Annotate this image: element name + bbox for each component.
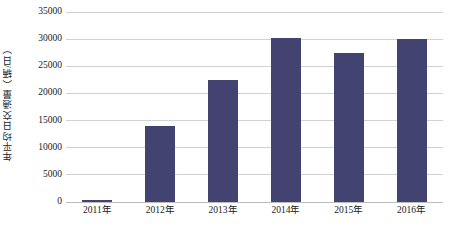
bar-slot bbox=[271, 12, 301, 202]
y-axis-tick-label: 25000 bbox=[18, 61, 62, 71]
y-axis-tick-label: 0 bbox=[18, 197, 62, 207]
gridline bbox=[66, 93, 443, 94]
gridline bbox=[66, 12, 443, 13]
y-axis-title-text: 年平均日交通量（辆/日） bbox=[4, 44, 14, 161]
bar bbox=[397, 39, 427, 202]
bar bbox=[271, 38, 301, 202]
bar-slot bbox=[208, 12, 238, 202]
bar bbox=[82, 200, 112, 202]
y-axis-tick-label: 35000 bbox=[18, 7, 62, 17]
x-axis-tick-label: 2011年 bbox=[66, 206, 129, 216]
bar-chart: 年平均日交通量（辆/日） 050001000015000200002500030… bbox=[0, 0, 450, 235]
y-axis-tick-label: 20000 bbox=[18, 88, 62, 98]
y-axis-tick-label: 15000 bbox=[18, 116, 62, 126]
x-axis-tick-label: 2012年 bbox=[129, 206, 192, 216]
y-axis-title: 年平均日交通量（辆/日） bbox=[0, 0, 18, 205]
bar bbox=[334, 53, 364, 202]
bar bbox=[145, 126, 175, 202]
y-axis-tick-label: 5000 bbox=[18, 170, 62, 180]
axis-baseline bbox=[66, 202, 443, 203]
x-axis-tick-label: 2015年 bbox=[317, 206, 380, 216]
plot-area bbox=[66, 12, 443, 202]
gridline bbox=[66, 39, 443, 40]
bar-slot bbox=[145, 12, 175, 202]
bar bbox=[208, 80, 238, 202]
bar-slot bbox=[82, 12, 112, 202]
x-axis-tick-label: 2016年 bbox=[380, 206, 443, 216]
y-axis-tick-label: 10000 bbox=[18, 143, 62, 153]
y-axis-tick-label: 30000 bbox=[18, 34, 62, 44]
x-axis-tick-labels: 2011年2012年2013年2014年2015年2016年 bbox=[66, 206, 443, 226]
gridline bbox=[66, 147, 443, 148]
x-axis-tick-label: 2013年 bbox=[192, 206, 255, 216]
gridline bbox=[66, 120, 443, 121]
bar-slot bbox=[334, 12, 364, 202]
bar-slot bbox=[397, 12, 427, 202]
x-axis-tick-label: 2014年 bbox=[255, 206, 318, 216]
gridline bbox=[66, 66, 443, 67]
gridline bbox=[66, 174, 443, 175]
